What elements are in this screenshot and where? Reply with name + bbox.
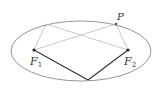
- label-f1: F1: [29, 55, 42, 69]
- point-p: [115, 23, 118, 26]
- line-q-f2: [46, 24, 128, 50]
- label-p: P: [116, 11, 124, 22]
- ellipse-diagram: P F1 F2: [0, 0, 162, 92]
- line-p-f1: [34, 24, 116, 50]
- ellipse: [11, 21, 151, 81]
- focus-f2-point: [126, 48, 129, 51]
- focus-f1-point: [32, 48, 35, 51]
- label-f2: F2: [123, 55, 136, 69]
